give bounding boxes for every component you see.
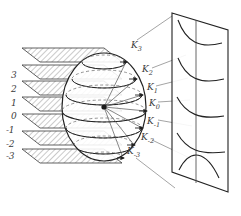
leader-km3: [136, 158, 175, 188]
k-label-neg1: K-1: [147, 116, 160, 129]
projection-plane: [172, 13, 228, 192]
axis-label-3: 3: [11, 70, 16, 80]
k-label-neg2: K-2: [141, 132, 154, 145]
k-label-0: K0: [149, 98, 160, 111]
k-label-3: K3: [131, 40, 142, 53]
k-label-1: K1: [147, 82, 158, 95]
axis-label-neg2: -2: [6, 139, 14, 149]
k-label-neg3: K-3: [127, 146, 140, 159]
axis-label-0: 0: [11, 111, 16, 121]
axis-label-2: 2: [11, 84, 16, 94]
axis-label-neg1: -1: [6, 125, 14, 135]
axis-label-neg3: -3: [6, 151, 14, 161]
pole-point: [101, 104, 106, 109]
axis-label-1: 1: [11, 98, 16, 108]
leader-k3: [137, 16, 172, 40]
k-label-2: K2: [142, 64, 153, 77]
figure-root: [0, 0, 241, 216]
